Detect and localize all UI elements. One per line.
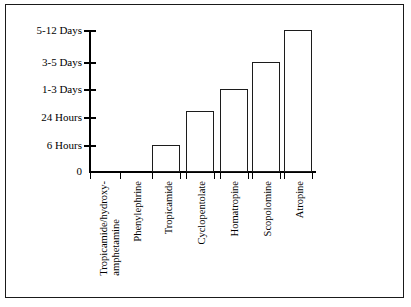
bar-scopolomine [252, 62, 280, 172]
y-axis-label-4: 3-5 Days [2, 57, 82, 68]
x-axis-label-scopolomine: Scopolomine [262, 181, 273, 236]
y-axis-label-text-3: 1-3 Days [4, 84, 82, 95]
y-axis-label-3: 1-3 Days [2, 84, 82, 95]
x-axis-label-line1-4: Homatropine [229, 181, 240, 236]
x-axis-label-line1-5: Scopolomine [262, 181, 273, 236]
x-tick-2 [152, 173, 153, 179]
x-axis-label-line1-0: Tropicamide/hydroxy- [98, 181, 109, 276]
x-tick-11 [312, 173, 313, 179]
y-axis-label-text-5: 5-12 Days [4, 25, 82, 36]
y-tick-5 [84, 30, 96, 32]
y-axis-line [89, 30, 91, 173]
x-axis-label-atropine: Atropine [294, 181, 305, 218]
x-tick-1 [120, 173, 121, 179]
y-axis-label-0: 0 [2, 166, 82, 177]
y-tick-2 [84, 117, 96, 119]
x-tick-5 [214, 173, 215, 179]
x-tick-9 [280, 173, 281, 179]
x-tick-0 [90, 173, 91, 179]
x-tick-3 [180, 173, 181, 179]
x-axis-label-line1-2: Tropicamide [163, 181, 174, 234]
x-axis-label-line1-1: Phenylephrine [132, 181, 143, 242]
x-axis-label-phenylephrine: Phenylephrine [132, 181, 143, 242]
x-axis-label-cyclopentolate: Cyclopentolate [196, 181, 207, 245]
y-tick-4 [84, 62, 96, 64]
y-axis-label-text-0: 0 [4, 166, 82, 177]
x-tick-4 [186, 173, 187, 179]
y-tick-1 [84, 145, 96, 147]
x-axis-label-tropicamide: Tropicamide [163, 181, 174, 234]
y-axis-label-text-2: 24 Hours [4, 112, 82, 123]
y-axis-label-text-1: 6 Hours [4, 140, 82, 151]
chart-figure: 5-12 Days 3-5 Days 1-3 Days 24 Hours 6 H… [0, 0, 411, 307]
x-axis-label-line1-3: Cyclopentolate [196, 181, 207, 245]
y-axis-label-1: 6 Hours [2, 140, 82, 151]
bar-cyclopentolate [186, 111, 214, 172]
y-axis-label-text-4: 3-5 Days [4, 57, 82, 68]
x-tick-7 [248, 173, 249, 179]
x-tick-6 [220, 173, 221, 179]
x-tick-10 [284, 173, 285, 179]
plot-area: 5-12 Days 3-5 Days 1-3 Days 24 Hours 6 H… [0, 0, 411, 307]
x-axis-label-homatropine: Homatropine [229, 181, 240, 236]
bar-homatropine [220, 89, 248, 172]
bar-atropine [284, 30, 312, 172]
x-axis-label-tropicamide-hydroxyamphetamine: Tropicamide/hydroxy- amphetamine [98, 181, 121, 276]
y-axis-label-2: 24 Hours [2, 112, 82, 123]
x-axis-label-line2-0: amphetamine [110, 181, 122, 276]
y-axis-label-5: 5-12 Days [2, 25, 82, 36]
bar-tropicamide [152, 145, 180, 172]
x-tick-8 [252, 173, 253, 179]
y-tick-3 [84, 89, 96, 91]
x-axis-label-line1-6: Atropine [294, 181, 305, 218]
